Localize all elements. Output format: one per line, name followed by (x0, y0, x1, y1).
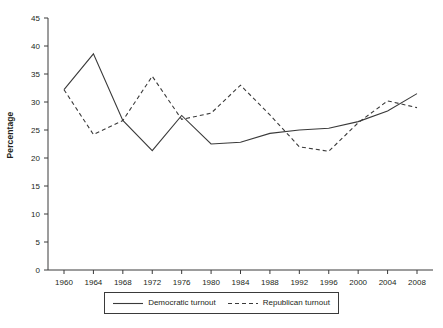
series-democratic-turnout-line (64, 54, 417, 151)
y-tick-label: 25 (31, 126, 40, 135)
x-tick-label: 2000 (349, 278, 367, 287)
series-republican-turnout-line (64, 76, 417, 151)
y-tick-label: 15 (31, 182, 40, 191)
x-tick-label: 1984 (232, 278, 250, 287)
y-tick-label: 5 (36, 238, 41, 247)
chart-legend: Democratic turnout Republican turnout (104, 292, 339, 314)
x-tick-label: 1980 (202, 278, 220, 287)
y-tick-label: 0 (36, 266, 41, 275)
y-tick-label: 40 (31, 42, 40, 51)
x-tick-label: 1960 (55, 278, 73, 287)
plot-area: 051015202530354045 196019641968197219761… (0, 0, 443, 292)
legend-item-democratic-turnout: Democratic turnout (113, 299, 216, 307)
line-chart: Percentage 051015202530354045 1960196419… (0, 0, 443, 328)
x-axis: 1960196419681972197619801984198819921996… (48, 270, 433, 287)
y-tick-label: 45 (31, 14, 40, 23)
y-tick-label: 20 (31, 154, 40, 163)
x-tick-label: 1964 (85, 278, 103, 287)
y-tick-label: 35 (31, 70, 40, 79)
legend-swatch-dashed (228, 300, 258, 307)
legend-label-democratic-turnout: Democratic turnout (148, 299, 216, 307)
x-tick-label: 1992 (290, 278, 308, 287)
x-tick-label: 1988 (261, 278, 279, 287)
y-tick-label: 10 (31, 210, 40, 219)
legend-item-republican-turnout: Republican turnout (228, 299, 330, 307)
x-tick-label: 1968 (114, 278, 132, 287)
legend-swatch-solid (113, 300, 143, 307)
y-axis: 051015202530354045 (31, 14, 48, 275)
x-tick-label: 1976 (173, 278, 191, 287)
x-tick-label: 1996 (320, 278, 338, 287)
series-lines (64, 54, 417, 151)
x-tick-label: 2004 (379, 278, 397, 287)
x-tick-label: 2008 (408, 278, 426, 287)
legend-label-republican-turnout: Republican turnout (263, 299, 330, 307)
x-tick-label: 1972 (143, 278, 161, 287)
y-tick-label: 30 (31, 98, 40, 107)
